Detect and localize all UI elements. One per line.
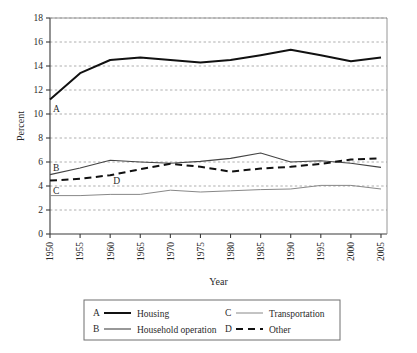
x-tick-label: 1965 [136, 242, 146, 261]
line-chart: 0246810121416181950195519601965197019751… [0, 0, 417, 353]
x-tick-label: 1970 [166, 242, 176, 261]
axes [50, 18, 387, 234]
x-axis-title: Year [209, 276, 228, 287]
legend-key-b: B [93, 324, 99, 334]
x-tick-label: 1985 [256, 242, 266, 261]
y-tick-label: 14 [34, 61, 44, 71]
x-tick-label: 1990 [286, 242, 296, 261]
legend-label-d: Other [269, 325, 291, 335]
gridlines [50, 18, 387, 210]
series-line-a [50, 50, 381, 100]
series-line-c [50, 185, 381, 195]
x-tick-label: 1950 [45, 242, 55, 261]
x-tick-label: 2005 [376, 242, 386, 261]
series-tags: ABCD [53, 104, 120, 197]
y-tick-label: 18 [34, 13, 44, 23]
y-axis-ticks: 024681012141618 [34, 13, 51, 239]
y-tick-label: 8 [38, 133, 43, 143]
x-tick-label: 2000 [346, 242, 356, 261]
legend-label-a: Housing [137, 309, 169, 319]
y-tick-label: 6 [38, 157, 43, 167]
y-tick-label: 0 [38, 229, 43, 239]
x-axis-ticks: 1950195519601965197019751980198519901995… [45, 234, 386, 261]
legend-key-d: D [225, 324, 232, 334]
legend-label-c: Transportation [269, 309, 325, 319]
series-tag-a: A [53, 104, 60, 114]
legend-label-b: Household operation [137, 325, 217, 335]
legend-key-a: A [93, 308, 100, 318]
y-tick-label: 2 [38, 205, 43, 215]
series-tag-b: B [53, 163, 59, 173]
y-tick-label: 12 [34, 85, 44, 95]
series-tag-d: D [113, 176, 120, 186]
series-lines [50, 50, 381, 196]
series-tag-c: C [53, 186, 59, 196]
x-tick-label: 1975 [196, 242, 206, 261]
x-tick-label: 1995 [316, 242, 326, 261]
y-tick-label: 4 [38, 181, 43, 191]
x-tick-label: 1980 [226, 242, 236, 261]
y-axis-title: Percent [15, 111, 26, 141]
x-tick-label: 1955 [75, 242, 85, 261]
series-line-b [50, 153, 381, 175]
legend: AHousingCTransportationBHousehold operat… [84, 300, 340, 340]
chart-figure: 0246810121416181950195519601965197019751… [0, 0, 417, 353]
y-tick-label: 16 [34, 37, 44, 47]
legend-key-c: C [225, 308, 231, 318]
x-tick-label: 1960 [106, 242, 116, 261]
y-tick-label: 10 [34, 109, 44, 119]
